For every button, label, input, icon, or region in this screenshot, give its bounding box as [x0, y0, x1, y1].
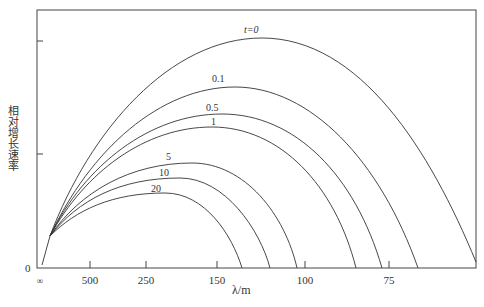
curve-label-10: 10	[159, 167, 169, 178]
x-tick-label-100: 100	[297, 274, 314, 286]
y-zero-label: 0	[25, 262, 31, 274]
curve-label-0.5: 0.5	[206, 102, 219, 113]
plot-frame	[37, 10, 476, 268]
curve-t20	[50, 193, 242, 268]
x-tick-label-150: 150	[209, 274, 226, 286]
curve-label-t0: t=0	[244, 24, 259, 35]
x-tick-label-250: 250	[138, 274, 155, 286]
y-axis-label: 相对增长速率	[5, 105, 19, 171]
chart-plot-area	[0, 0, 484, 307]
x-tick-label-500: 500	[82, 274, 99, 286]
curve-label-20: 20	[151, 183, 161, 194]
curve-t0	[42, 38, 476, 265]
curve-label-5: 5	[166, 151, 171, 162]
x-axis-label: λ/m	[232, 283, 251, 298]
curve-label-0.1: 0.1	[212, 73, 225, 84]
x-tick-label-75: 75	[384, 274, 395, 286]
curve-t0.5	[50, 114, 382, 268]
curve-label-1: 1	[211, 116, 216, 127]
curve-t5	[50, 163, 297, 268]
x-tick-label-inf: ∞	[37, 276, 43, 286]
